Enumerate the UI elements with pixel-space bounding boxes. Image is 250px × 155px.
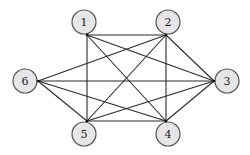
edge-anchor-dot [86,120,89,123]
node-label: 6 [22,75,29,88]
node-2: 2 [156,10,180,36]
node-3: 3 [213,69,239,93]
edge-1-3 [87,35,214,81]
edge-2-3 [166,35,214,81]
node-label: 4 [165,128,172,141]
edges-layer [38,35,214,121]
edge-3-4 [166,81,214,121]
node-1: 1 [72,10,96,36]
edge-5-6 [38,81,87,121]
edge-anchor-dot [165,34,168,37]
edge-2-6 [38,35,166,81]
node-6: 6 [13,69,39,93]
graph-diagram: 123456 [0,0,250,155]
node-5: 5 [72,120,96,146]
edge-anchor-dot [37,80,40,83]
node-label: 2 [165,16,172,29]
node-4: 4 [156,120,180,146]
edge-anchor-dot [213,80,216,83]
node-label: 5 [81,128,88,141]
edge-anchor-dot [86,34,89,37]
edge-anchor-dot [165,120,168,123]
node-label: 1 [81,16,88,29]
node-label: 3 [224,75,231,88]
edge-4-6 [38,81,166,121]
